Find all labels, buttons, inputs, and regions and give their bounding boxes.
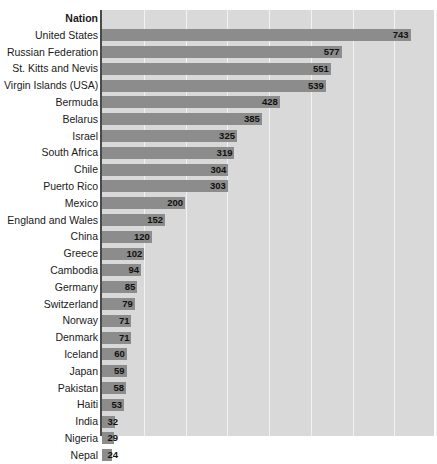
chart-row: Virgin Islands (USA)539 [102, 77, 434, 94]
category-label: Belarus [4, 111, 102, 128]
category-label: India [4, 413, 102, 430]
bar-group: 59 [102, 365, 127, 377]
bar-group: 71 [102, 315, 131, 327]
bar-value-label: 59 [102, 365, 127, 377]
category-label: Germany [4, 279, 102, 296]
chart-row: Puerto Rico303 [102, 178, 434, 195]
bar-value-label: 152 [102, 214, 165, 226]
bar-group: 58 [102, 382, 126, 394]
bar-value-label: 58 [102, 382, 126, 394]
bar-value-label: 304 [102, 164, 228, 176]
chart-row: Iceland60 [102, 346, 434, 363]
chart-row: India32 [102, 413, 434, 430]
category-label: Virgin Islands (USA) [4, 77, 102, 94]
bar-group: 743 [102, 29, 411, 41]
bar-group: 385 [102, 113, 262, 125]
axis-header-label: Nation [4, 10, 102, 27]
category-label: United States [4, 27, 102, 44]
chart-row: Bermuda428 [102, 94, 434, 111]
bar-group: 319 [102, 147, 234, 159]
bar-group: 428 [102, 96, 280, 108]
bar-value-label: 32 [102, 416, 120, 428]
bar-group: 29 [102, 432, 114, 444]
chart-row: Cambodia94 [102, 262, 434, 279]
chart-row: Denmark71 [102, 329, 434, 346]
category-label: Iceland [4, 346, 102, 363]
bar-group: 32 [102, 416, 115, 428]
chart-row: Pakistan58 [102, 380, 434, 397]
bar-value-label: 743 [102, 29, 411, 41]
bar-value-label: 200 [102, 197, 185, 209]
bar-value-label: 385 [102, 113, 262, 125]
chart-row: Switzerland79 [102, 296, 434, 313]
bar-value-label: 319 [102, 147, 234, 159]
category-label: Greece [4, 245, 102, 262]
bar-group: 24 [102, 449, 112, 461]
category-label: Chile [4, 161, 102, 178]
chart-row: Greece102 [102, 245, 434, 262]
bar-value-label: 102 [102, 248, 144, 260]
category-label: Mexico [4, 195, 102, 212]
plot-area: NationUnited States743Russian Federation… [100, 10, 434, 436]
category-label: China [4, 228, 102, 245]
chart-row: Russian Federation577 [102, 44, 434, 61]
bar-value-label: 551 [102, 63, 331, 75]
category-label: Japan [4, 363, 102, 380]
category-label: Israel [4, 128, 102, 145]
category-label: Nigeria [4, 430, 102, 447]
bar-group: 53 [102, 399, 124, 411]
chart-row: Norway71 [102, 312, 434, 329]
bar-group: 551 [102, 63, 331, 75]
bar-value-label: 29 [102, 432, 120, 444]
category-label: Nepal [4, 447, 102, 464]
category-label: Pakistan [4, 380, 102, 397]
bar-value-label: 60 [102, 348, 127, 360]
category-label: Puerto Rico [4, 178, 102, 195]
category-label: Haiti [4, 396, 102, 413]
category-label: Norway [4, 312, 102, 329]
category-label: Switzerland [4, 296, 102, 313]
bar-group: 79 [102, 298, 135, 310]
bar-group: 539 [102, 80, 326, 92]
chart-row: Japan59 [102, 363, 434, 380]
bar-value-label: 71 [102, 315, 131, 327]
category-label: Denmark [4, 329, 102, 346]
bar-group: 152 [102, 214, 165, 226]
chart-row: Mexico200 [102, 195, 434, 212]
chart-row: China120 [102, 228, 434, 245]
bar-group: 71 [102, 332, 131, 344]
chart-row: England and Wales152 [102, 212, 434, 229]
chart-row: St. Kitts and Nevis551 [102, 60, 434, 77]
bar-value-label: 539 [102, 80, 326, 92]
chart-rows: NationUnited States743Russian Federation… [102, 10, 434, 464]
bar-value-label: 71 [102, 332, 131, 344]
bar-value-label: 120 [102, 231, 152, 243]
category-label: Bermuda [4, 94, 102, 111]
chart-row: Nepal24 [102, 447, 434, 464]
chart-row: South Africa319 [102, 144, 434, 161]
bar-group: 325 [102, 130, 237, 142]
chart-row: Haiti53 [102, 396, 434, 413]
bar-group: 303 [102, 180, 228, 192]
bar-group: 304 [102, 164, 228, 176]
category-label: Cambodia [4, 262, 102, 279]
bar-value-label: 428 [102, 96, 280, 108]
bar-value-label: 325 [102, 130, 237, 142]
bar-group: 200 [102, 197, 185, 209]
chart-row: Nigeria29 [102, 430, 434, 447]
bar-value-label: 24 [102, 449, 120, 461]
category-label: St. Kitts and Nevis [4, 60, 102, 77]
bar-group: 60 [102, 348, 127, 360]
chart-row: Germany85 [102, 279, 434, 296]
bar-group: 94 [102, 264, 141, 276]
bar-group: 120 [102, 231, 152, 243]
bar-value-label: 94 [102, 264, 141, 276]
chart-row: Belarus385 [102, 111, 434, 128]
bar-value-label: 53 [102, 399, 124, 411]
chart-row: United States743 [102, 27, 434, 44]
bar-value-label: 303 [102, 180, 228, 192]
category-label: Russian Federation [4, 44, 102, 61]
chart-row: Chile304 [102, 161, 434, 178]
bar-value-label: 79 [102, 298, 135, 310]
